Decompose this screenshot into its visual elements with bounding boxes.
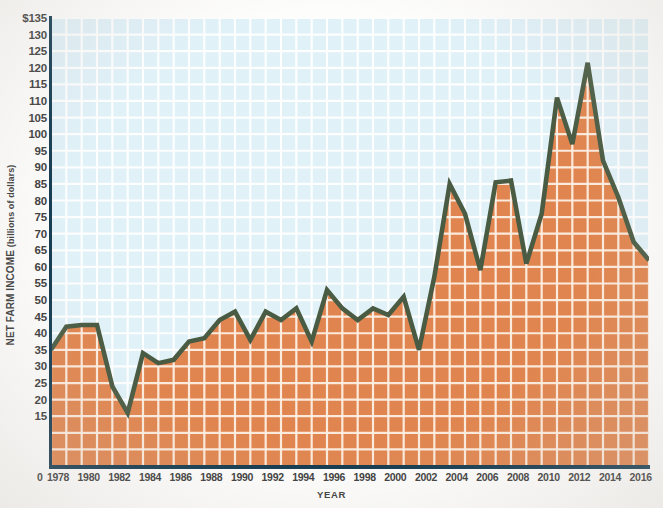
x-axis-tick-label: 2000: [384, 471, 406, 483]
y-axis-tick-label: 100: [3, 128, 47, 140]
y-axis-tick-label: 20: [3, 394, 47, 406]
chart-plot-frame: [51, 18, 649, 466]
x-axis-tick-label: 1998: [354, 471, 376, 483]
y-axis-tick-label: 30: [3, 360, 47, 372]
x-axis-line: [49, 465, 650, 469]
y-axis-tick-label: 125: [3, 45, 47, 57]
x-axis-tick-label: 2010: [538, 471, 560, 483]
x-axis-tick-label: 1990: [231, 471, 253, 483]
x-axis-tick-label: 2014: [599, 471, 621, 483]
x-axis-tick-label: 2012: [568, 471, 590, 483]
y-axis-tick-label: 110: [3, 95, 47, 107]
y-axis-tick-label: 25: [3, 377, 47, 389]
y-axis-title-text: NET FARM INCOME: [5, 250, 16, 345]
y-axis-title: NET FARM INCOME (billions of dollars): [0, 155, 22, 355]
chart-page: $135130125120115110105100959085807570656…: [0, 0, 663, 508]
y-axis-tick-label: $135: [3, 12, 47, 24]
x-axis-tick-label: 1996: [323, 471, 345, 483]
x-axis-tick-labels: 1978198019821984198619881990199219941996…: [0, 471, 663, 489]
y-axis-tick-label: 130: [3, 29, 47, 41]
x-axis-tick-label: 2006: [476, 471, 498, 483]
x-axis-tick-label: 1978: [47, 471, 69, 483]
x-axis-tick-label: 1994: [292, 471, 314, 483]
y-axis-line: [49, 16, 52, 468]
x-axis-tick-label: 1984: [139, 471, 161, 483]
y-axis-tick-label: 105: [3, 112, 47, 124]
x-axis-title: YEAR: [0, 489, 663, 500]
x-axis-tick-label: 2016: [630, 471, 652, 483]
y-axis-title-unit: (billions of dollars): [6, 165, 16, 248]
net-farm-income-area-series: [51, 18, 649, 466]
y-axis-tick-label: 15: [3, 410, 47, 422]
x-axis-tick-label: 1982: [108, 471, 130, 483]
x-axis-tick-label: 1980: [78, 471, 100, 483]
x-axis-tick-label: 1986: [170, 471, 192, 483]
y-axis-tick-label: 120: [3, 62, 47, 74]
x-axis-tick-label: 2008: [507, 471, 529, 483]
x-axis-tick-label: 1988: [200, 471, 222, 483]
plot-area: [51, 18, 649, 466]
y-axis-tick-label: 115: [3, 78, 47, 90]
x-axis-origin-label: 0: [37, 471, 43, 483]
x-axis-tick-label: 2002: [415, 471, 437, 483]
x-axis-tick-label: 1992: [262, 471, 284, 483]
x-axis-tick-label: 2004: [446, 471, 468, 483]
